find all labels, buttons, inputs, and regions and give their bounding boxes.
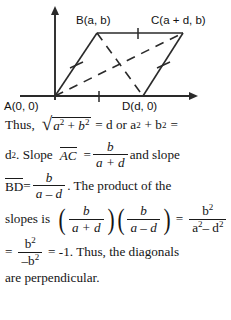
fraction-3: b2 a2– d2	[189, 204, 226, 233]
frac2-num: b	[137, 204, 150, 218]
y-axis-icon	[51, 6, 59, 100]
left-paren-icon: (	[117, 211, 124, 227]
equals-end-1: =	[170, 118, 177, 131]
equals-5a: =	[5, 245, 12, 258]
equals-4: =	[176, 212, 183, 225]
diagonal-bd	[97, 33, 143, 96]
radicand-b: b	[78, 118, 85, 133]
product-phrase: . The product of the	[67, 179, 171, 192]
right-paren-icon: )	[107, 211, 114, 227]
fraction-1: b a + d	[69, 204, 104, 233]
frac-num: b	[104, 140, 117, 154]
exp-b: 2	[85, 117, 89, 127]
frac1-num: b	[80, 204, 93, 218]
equals-d-or: = d or a	[95, 118, 136, 131]
frac2-den: a – d	[127, 219, 159, 234]
exp-a: 2	[60, 117, 64, 127]
parallelogram-figure: B(a, b) C(a + d, b) A(0, 0) D(d, 0)	[0, 0, 231, 113]
grouped-fraction-2: ( b a – d )	[116, 204, 172, 233]
plus-b: + b	[145, 118, 162, 131]
frac5-den: –b2	[18, 252, 42, 267]
label-c: C(a + d, b)	[151, 14, 206, 26]
segment-ac-label: AC	[60, 147, 77, 162]
frac-num: b	[43, 171, 56, 185]
radicand-a: a	[53, 118, 60, 133]
label-b: B(a, b)	[76, 14, 111, 26]
fraction-2: b a – d	[127, 204, 159, 233]
fraction-b2-over-neg-b2: b2 –b2	[18, 237, 42, 266]
equals-neg-one-phrase: = -1. Thus, the diagonals	[48, 245, 179, 258]
proof-line-5: = b2 –b2 = -1. Thus, the diagonals	[0, 237, 231, 267]
radical-icon: √	[42, 116, 53, 132]
frac5-num: b2	[22, 237, 39, 251]
equals-2: =	[84, 148, 91, 161]
proof-line-4: slopes is ( b a + d ) ( b a – d ) = b2 a…	[0, 201, 231, 237]
frac-den: a – d	[33, 185, 65, 200]
frac1-den: a + d	[69, 219, 104, 234]
thus-word: Thus,	[5, 118, 35, 131]
x-axis-icon	[20, 92, 198, 100]
right-paren-icon: )	[163, 211, 170, 227]
grouped-fraction-1: ( b a + d )	[57, 204, 115, 233]
fraction-b-over-a-minus-d: b a – d	[33, 171, 65, 200]
equals-3: =	[23, 179, 30, 192]
figure-svg: B(a, b) C(a + d, b) A(0, 0) D(d, 0)	[0, 0, 231, 113]
slope-word: . Slope	[16, 148, 53, 161]
proof-line-3: BD = b a – d . The product of the	[0, 170, 231, 201]
and-slope-word: and slope	[130, 148, 180, 161]
frac3-den: a2– d2	[189, 219, 226, 234]
left-paren-icon: (	[58, 211, 65, 227]
proof-line-1: Thus, √ a2 + b2 = d or a2 + b2 =	[0, 111, 231, 139]
proof-line-6: are perpendicular.	[0, 267, 231, 289]
radical-expression: √ a2 + b2	[42, 117, 92, 133]
frac3-num: b2	[199, 204, 216, 218]
proof-line-2: d2 . Slope AC = b a + d and slope	[0, 139, 231, 170]
plus-sign: +	[68, 118, 75, 133]
slopes-is-word: slopes is	[5, 212, 50, 225]
proof-text: Thus, √ a2 + b2 = d or a2 + b2 = d2 . Sl…	[0, 111, 231, 289]
d-term: d	[5, 148, 12, 161]
fraction-b-over-a-plus-d: b a + d	[93, 140, 128, 169]
conclusion-text: are perpendicular.	[5, 271, 99, 284]
segment-bd-label: BD	[5, 178, 23, 193]
frac-den: a + d	[93, 154, 128, 169]
